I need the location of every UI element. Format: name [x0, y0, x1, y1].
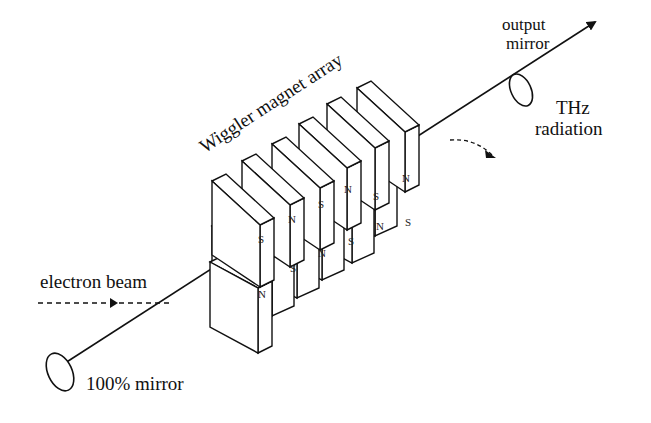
thz-label-1: THz: [556, 98, 590, 117]
electron-beam-label: electron beam: [40, 272, 147, 291]
svg-text:S: S: [290, 262, 296, 274]
rear-mirror-label: 100% mirror: [86, 374, 184, 393]
svg-text:S: S: [373, 190, 379, 202]
svg-text:S: S: [348, 235, 354, 247]
svg-text:N: N: [402, 172, 410, 184]
fel-diagram: N S N S N S S N S N S N Wiggler magnet a…: [0, 0, 651, 423]
exit-arrow-icon: [485, 150, 496, 158]
rear-mirror: [41, 349, 80, 395]
svg-text:N: N: [376, 220, 384, 232]
svg-text:S: S: [318, 198, 324, 210]
thz-label-2: radiation: [535, 119, 603, 138]
svg-text:N: N: [258, 288, 266, 300]
output-mirror-label-1: output: [502, 16, 545, 33]
svg-text:S: S: [405, 216, 411, 228]
output-mirror-label-2: mirror: [506, 35, 549, 52]
svg-text:N: N: [318, 247, 326, 259]
electron-beam-arrow-icon: [110, 298, 118, 308]
svg-text:N: N: [288, 213, 296, 225]
svg-text:N: N: [344, 183, 352, 195]
svg-text:S: S: [258, 233, 264, 245]
